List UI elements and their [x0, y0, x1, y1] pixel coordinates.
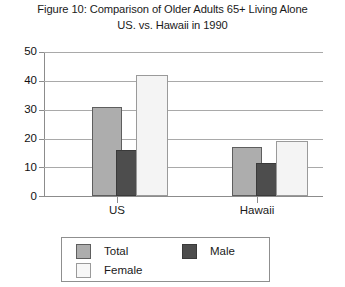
bar-series-container [44, 52, 323, 196]
y-tick-label-40: 40 [7, 75, 37, 87]
bar-us-female [136, 75, 168, 196]
x-tick-mark-hawaii [257, 196, 258, 203]
x-tick-mark-us [117, 196, 118, 203]
y-tick-label-0: 0 [7, 191, 37, 203]
legend-label-female: Female [104, 264, 142, 276]
legend-swatch-female-icon [76, 263, 91, 278]
chart-title-line-1: Figure 10: Comparison of Older Adults 65… [0, 1, 345, 17]
chart-legend: Total Male Female [61, 237, 270, 282]
x-tick-label-hawaii: Hawaii [212, 204, 302, 217]
chart-figure: Figure 10: Comparison of Older Adults 65… [0, 0, 345, 287]
legend-swatch-total-icon [76, 244, 91, 259]
chart-title-block: Figure 10: Comparison of Older Adults 65… [0, 1, 345, 33]
y-tick-label-50: 50 [7, 46, 37, 58]
legend-item-total: Total [76, 242, 128, 260]
y-tick-label-20: 20 [7, 133, 37, 145]
legend-swatch-male-icon [182, 244, 197, 259]
bar-us-male [116, 150, 138, 196]
x-tick-label-us: US [72, 204, 162, 217]
chart-title-line-2: US. vs. Hawaii in 1990 [0, 17, 345, 33]
legend-item-male: Male [182, 242, 235, 260]
legend-label-total: Total [104, 245, 128, 257]
legend-label-male: Male [210, 245, 235, 257]
legend-item-female: Female [76, 261, 142, 279]
bar-hawaii-male [256, 163, 278, 196]
y-tick-label-10: 10 [7, 162, 37, 174]
bar-hawaii-female [276, 141, 308, 196]
y-tick-label-30: 30 [7, 104, 37, 116]
gridline-baseline-0 [44, 196, 323, 197]
plot-area [44, 52, 323, 196]
